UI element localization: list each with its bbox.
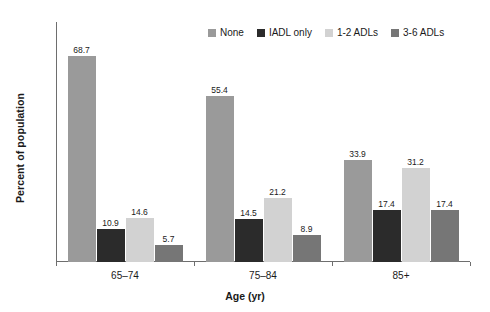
legend-label: None: [220, 27, 244, 38]
bar: [126, 218, 154, 262]
legend: NoneIADL only1-2 ADLs3-6 ADLs: [208, 27, 444, 38]
x-axis-tick-label: 75–84: [249, 270, 277, 281]
y-axis-title: Percent of population: [14, 48, 26, 248]
bar-value-label: 17.4: [436, 199, 453, 209]
x-axis-tick-mark: [470, 262, 471, 266]
x-axis-tick-mark: [194, 262, 195, 266]
bar: [373, 210, 401, 262]
x-axis-tick-mark: [56, 262, 57, 266]
bar: [97, 229, 125, 262]
bar-value-label: 21.2: [269, 187, 286, 197]
bar: [293, 235, 321, 262]
bar: [344, 160, 372, 262]
bar: [235, 219, 263, 263]
bar-value-label: 55.4: [211, 85, 228, 95]
legend-label: 3-6 ADLs: [403, 27, 444, 38]
legend-swatch: [391, 29, 399, 37]
legend-swatch: [257, 29, 265, 37]
bar-value-label: 5.7: [163, 234, 175, 244]
legend-item: 3-6 ADLs: [391, 27, 444, 38]
bar: [431, 210, 459, 262]
bar: [264, 198, 292, 262]
x-axis-tick-label: 85+: [393, 270, 410, 281]
legend-label: 1-2 ADLs: [337, 27, 378, 38]
x-axis-tick-mark: [332, 262, 333, 266]
legend-swatch: [325, 29, 333, 37]
bar-value-label: 31.2: [407, 157, 424, 167]
bar: [68, 56, 96, 262]
x-axis-tick-label: 65–74: [111, 270, 139, 281]
bar: [206, 96, 234, 262]
legend-item: IADL only: [257, 27, 312, 38]
bar-value-label: 10.9: [102, 218, 119, 228]
bar-value-label: 68.7: [73, 45, 90, 55]
legend-item: 1-2 ADLs: [325, 27, 378, 38]
y-axis: 01020304050607080: [0, 0, 56, 262]
bar-chart: 01020304050607080 Percent of population …: [0, 0, 490, 312]
bar-value-label: 33.9: [349, 149, 366, 159]
legend-swatch: [208, 29, 216, 37]
bar-value-label: 14.5: [240, 208, 257, 218]
bar-value-label: 14.6: [131, 207, 148, 217]
legend-item: None: [208, 27, 244, 38]
bar-value-label: 17.4: [378, 199, 395, 209]
bar-value-label: 8.9: [301, 224, 313, 234]
legend-label: IADL only: [269, 27, 312, 38]
bar: [155, 245, 183, 262]
bar: [402, 168, 430, 262]
x-axis-title: Age (yr): [0, 290, 490, 302]
